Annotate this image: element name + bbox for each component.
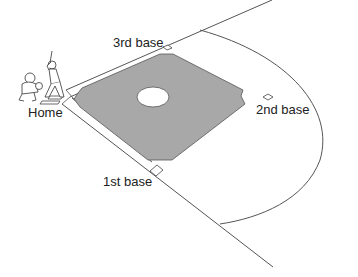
label-second-base: 2nd base (256, 103, 310, 116)
infield (74, 54, 245, 160)
outfield-arc (200, 30, 323, 224)
second-base-bag (263, 94, 273, 100)
third-base-bag (163, 45, 172, 50)
batter-figure (45, 51, 64, 97)
pitchers-mound (137, 87, 169, 107)
label-first-base: 1st base (103, 175, 152, 188)
baseball-field-diagram (0, 0, 358, 277)
catcher-figure (19, 73, 43, 101)
label-third-base: 3rd base (113, 36, 164, 49)
home-plate-area (40, 96, 63, 104)
label-home: Home (28, 106, 63, 119)
